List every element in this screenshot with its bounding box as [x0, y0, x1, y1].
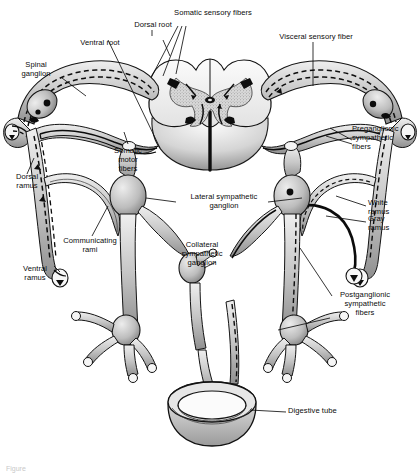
label-communicating-rami: Communicating rami [50, 236, 130, 254]
right-lateral-sympathetic-ganglion [230, 142, 310, 331]
label-postganglionic-sympathetic-fibers: Postganglionic sympathetic fibers [330, 290, 400, 318]
left-rami [4, 118, 68, 287]
label-visceral-sensory-fiber: Visceral sensory fiber [262, 32, 370, 41]
label-ventral-ramus: Ventral ramus [12, 264, 58, 282]
label-collateral-sympathetic-ganglion: Collateral sympathetic ganglion [170, 240, 234, 268]
label-dorsal-root: Dorsal root [118, 20, 188, 29]
leader-communicating-rami [92, 206, 108, 236]
label-somatic-motor-fibers: Somatic motor fibers [100, 146, 156, 174]
label-preganglionic-sympathetic-fibers: Preganglionic sympathetic fibers [352, 124, 418, 152]
digestive-tube [168, 382, 256, 446]
label-somatic-sensory-fibers: Somatic sensory fibers [158, 8, 268, 17]
label-dorsal-ramus: Dorsal ramus [4, 172, 50, 190]
figure-canvas: Dorsal root Ventral root Somatic sensory… [0, 0, 420, 476]
leader-white-ramus [336, 196, 366, 206]
label-spinal-ganglion: Spinal ganglion [8, 60, 64, 78]
label-gray-ramus: Gray ramus [368, 214, 412, 232]
left-peripheral-trunk [72, 312, 157, 383]
label-lateral-sympathetic-ganglion: Lateral sympathetic ganglion [178, 192, 270, 210]
left-communicating-rami [44, 174, 120, 236]
figure-caption: Figure [6, 465, 306, 475]
leader-postganglionic-1 [300, 248, 332, 296]
label-digestive-tube: Digestive tube [288, 406, 368, 415]
spinal-cord [149, 59, 271, 170]
right-dorsal-root [261, 61, 402, 126]
label-ventral-root: Ventral root [62, 38, 138, 47]
right-peripheral-trunk [264, 312, 349, 383]
leader-lateral-ganglion-left [146, 198, 176, 202]
leader-gray-ramus [326, 216, 366, 222]
